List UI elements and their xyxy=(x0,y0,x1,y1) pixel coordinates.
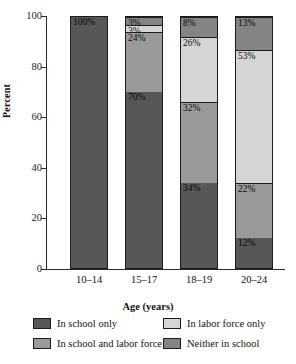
legend-color-swatch xyxy=(33,338,51,349)
bar-segment-value-label: 13% xyxy=(238,18,255,28)
bar-segment[interactable]: 8% xyxy=(181,17,217,37)
x-axis-category-label: 20–24 xyxy=(226,274,282,285)
x-axis-title: Age (years) xyxy=(0,301,296,312)
bar-segment-value-label: 32% xyxy=(183,103,200,113)
bar-segment-value-label: 22% xyxy=(238,184,255,194)
y-axis-tick-label: 80 xyxy=(32,61,43,72)
legend-item-label: Neither in school xyxy=(187,338,259,349)
legend-item-label: In labor force only xyxy=(187,318,265,329)
x-axis-category-label: 18–19 xyxy=(171,274,227,285)
chart-title xyxy=(0,0,296,3)
bar-segment[interactable]: 3% xyxy=(126,17,162,25)
bar-segment-value-label: 12% xyxy=(238,238,255,248)
bar-segment-value-label: 8% xyxy=(183,18,196,28)
bar-segment[interactable]: 100% xyxy=(71,17,107,268)
bar-stack: 70%24%3%3% xyxy=(125,16,163,269)
legend-item-label: In school only xyxy=(57,318,117,329)
y-axis-title: Percent xyxy=(1,84,12,118)
bar-segment[interactable]: 32% xyxy=(181,102,217,182)
legend-color-swatch xyxy=(163,338,181,349)
legend-item[interactable]: Neither in school xyxy=(163,338,259,349)
bar-segment-value-label: 3% xyxy=(128,26,141,33)
bar-stack: 100% xyxy=(70,16,108,269)
y-axis-tick-label: 60 xyxy=(32,112,43,123)
bars-layer: 100%70%24%3%3%34%32%26%8%12%22%53%13% xyxy=(46,16,284,269)
bar-group[interactable]: 100% xyxy=(70,16,108,269)
bar-segment-value-label: 24% xyxy=(128,33,145,43)
y-axis-tick-label: 100 xyxy=(26,11,42,22)
bar-segment[interactable]: 13% xyxy=(236,17,272,50)
bar-segment-value-label: 70% xyxy=(128,92,145,102)
legend-item[interactable]: In school only xyxy=(33,318,117,329)
legend-color-swatch xyxy=(163,318,181,329)
x-axis-category-label: 15–17 xyxy=(116,274,172,285)
legend-item-label: In school and labor force xyxy=(57,338,162,349)
bar-segment-value-label: 3% xyxy=(128,18,141,25)
bar-segment-value-label: 26% xyxy=(183,38,200,48)
x-axis-category-label: 10–14 xyxy=(61,274,117,285)
bar-group[interactable]: 34%32%26%8% xyxy=(180,16,218,269)
bar-segment[interactable]: 12% xyxy=(236,238,272,268)
x-axis-line xyxy=(46,269,285,270)
bar-segment-value-label: 100% xyxy=(73,17,95,27)
y-axis-tick-label: 0 xyxy=(37,264,42,275)
bar-segment[interactable]: 53% xyxy=(236,50,272,183)
y-axis-tick-label: 20 xyxy=(32,213,43,224)
chart-legend: In school onlyIn school and labor forceI… xyxy=(0,316,296,364)
bar-segment[interactable]: 26% xyxy=(181,37,217,102)
legend-item[interactable]: In school and labor force xyxy=(33,338,162,349)
bar-stack: 12%22%53%13% xyxy=(235,16,273,269)
bar-segment[interactable]: 3% xyxy=(126,25,162,33)
bar-segment[interactable]: 24% xyxy=(126,32,162,92)
bar-segment[interactable]: 22% xyxy=(236,183,272,238)
bar-segment[interactable]: 70% xyxy=(126,92,162,268)
bar-stack: 34%32%26%8% xyxy=(180,16,218,269)
legend-item[interactable]: In labor force only xyxy=(163,318,265,329)
bar-segment[interactable]: 34% xyxy=(181,183,217,268)
bar-group[interactable]: 70%24%3%3% xyxy=(125,16,163,269)
y-axis-tick-label: 40 xyxy=(32,163,43,174)
bar-segment-value-label: 34% xyxy=(183,183,200,193)
stacked-bar-chart: Percent Age (years) 020406080100 100%70%… xyxy=(0,0,296,364)
bar-segment-value-label: 53% xyxy=(238,51,255,61)
bar-group[interactable]: 12%22%53%13% xyxy=(235,16,273,269)
plot-area: 020406080100 100%70%24%3%3%34%32%26%8%12… xyxy=(46,16,284,269)
legend-color-swatch xyxy=(33,318,51,329)
